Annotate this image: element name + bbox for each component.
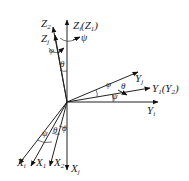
angle-phi-x: ϕ (62, 123, 67, 133)
z-axes (49, 20, 80, 102)
label-yj: Yj (135, 72, 143, 86)
angle-theta-y: θ (121, 81, 126, 91)
axis-yj (67, 72, 138, 102)
angle-phi-y: φ (106, 79, 111, 89)
label-zj: Zj (41, 32, 49, 46)
angle-theta-x: θ (53, 125, 58, 135)
axis-y1 (67, 88, 150, 102)
label-xj: Xj (70, 162, 80, 176)
phi-arc-y (96, 90, 97, 97)
label-x2: X2 (53, 156, 65, 170)
label-y1: Y1(Y2) (152, 82, 179, 96)
angle-psi-top: ψ (81, 32, 88, 43)
label-yi: Yi (147, 104, 155, 118)
label-xi: Xi (16, 156, 26, 170)
psi-rotation-arrow (73, 37, 80, 40)
angle-psi-y: ψ (112, 91, 118, 101)
angle-psi-x: ψ (42, 128, 48, 138)
diagram-canvas: Zi(Z1) Z2 Zj ψ φ θ Yj Y1(Y2) Yi φ θ ψ ψ … (0, 0, 189, 181)
label-zi: Zi(Z1) (73, 19, 98, 33)
label-z2: Z2 (41, 17, 51, 31)
phi-arc-arrow (58, 48, 64, 53)
angle-theta-top: θ (60, 59, 65, 69)
coordinate-diagram: Zi(Z1) Z2 Zj ψ φ θ Yj Y1(Y2) Yi φ θ ψ ψ … (0, 0, 189, 181)
label-x1: X1 (35, 156, 46, 170)
angle-phi-top: φ (49, 45, 54, 55)
